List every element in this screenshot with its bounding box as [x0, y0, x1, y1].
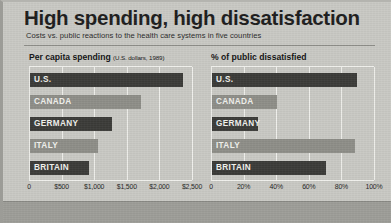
bar-row: GERMANY: [212, 117, 375, 131]
bar-label: GERMANY: [34, 117, 78, 131]
bar-label: CANADA: [34, 95, 72, 109]
axis-tick-label: $1,500: [117, 183, 137, 190]
bar-row: CANADA: [212, 95, 375, 109]
bar-label: GERMANY: [216, 117, 260, 131]
bar-label: ITALY: [216, 139, 240, 153]
x-axis-right: 020%40%60%80%100%: [206, 183, 379, 195]
bar-row: ITALY: [30, 139, 193, 153]
bar-label: ITALY: [34, 139, 58, 153]
page-title: High spending, high dissatisfaction: [24, 6, 360, 30]
bar-row: U.S.: [30, 73, 193, 87]
panel-title-right: % of public dissatisfied: [211, 52, 307, 62]
bar-row: GERMANY: [30, 117, 193, 131]
bar-label: BRITAIN: [216, 161, 251, 175]
bar-left-us: [30, 73, 183, 87]
panel-title-left-text: Per capita spending: [29, 52, 111, 62]
header-divider: [24, 45, 375, 46]
bar-row: ITALY: [212, 139, 375, 153]
bar-row: CANADA: [30, 95, 193, 109]
bar-label: U.S.: [34, 73, 51, 87]
footer-band: [3, 201, 391, 223]
axis-tick-label: $500: [54, 183, 69, 190]
axis-tick-label: 100%: [365, 183, 382, 190]
axis-tick-label: 0: [209, 183, 213, 190]
bar-label: BRITAIN: [34, 161, 69, 175]
axis-tick-label: 80%: [335, 183, 348, 190]
bar-label: U.S.: [216, 73, 233, 87]
x-axis-left: 0$500$1,000$1,500$2,000$2,500: [24, 183, 197, 195]
panel-title-right-text: % of public dissatisfied: [211, 52, 307, 62]
bar-row: BRITAIN: [212, 161, 375, 175]
axis-tick-label: 20%: [237, 183, 250, 190]
axis-tick-label: 0: [27, 183, 31, 190]
bar-label: CANADA: [216, 95, 254, 109]
axis-tick-label: $2,000: [149, 183, 169, 190]
axis-tick-label: $2,500: [182, 183, 202, 190]
bar-right-us: [212, 73, 357, 87]
axis-tick-label: 60%: [302, 183, 315, 190]
plot-area-left: U.S.CANADAGERMANYITALYBRITAIN: [29, 66, 192, 181]
page-subtitle: Costs vs. public reactions to the health…: [26, 31, 261, 40]
panel-title-left: Per capita spending (U.S. dollars, 1989): [29, 52, 164, 62]
bar-row: U.S.: [212, 73, 375, 87]
panel-title-left-unit: (U.S. dollars, 1989): [113, 54, 164, 61]
bar-row: BRITAIN: [30, 161, 193, 175]
axis-tick-label: 40%: [270, 183, 283, 190]
chart-figure: High spending, high dissatisfaction Cost…: [0, 0, 391, 223]
axis-tick-label: $1,000: [84, 183, 104, 190]
plot-area-right: U.S.CANADAGERMANYITALYBRITAIN: [211, 66, 374, 181]
